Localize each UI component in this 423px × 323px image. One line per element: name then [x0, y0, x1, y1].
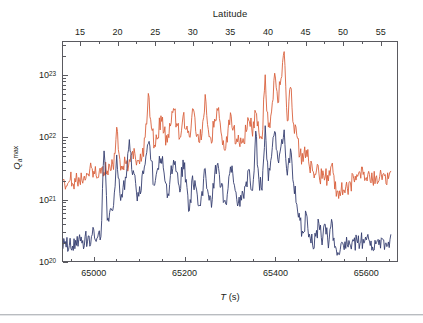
- latitude-tick-major: [381, 41, 382, 46]
- ytick-minor: [63, 147, 66, 148]
- xtick-minor: [321, 259, 322, 262]
- latitude-tick-label: 50: [338, 27, 348, 37]
- ytick-exponent: 22: [49, 132, 56, 139]
- ytick-minor: [63, 218, 66, 219]
- y-axis-symbol: Q: [11, 162, 22, 169]
- x-axis-unit: (s): [229, 291, 240, 302]
- latitude-tick-label: 25: [150, 27, 160, 37]
- y-axis-title: Qamax: [11, 128, 22, 188]
- latitude-tick-minor: [362, 41, 363, 44]
- latitude-tick-major: [343, 41, 344, 46]
- xtick-label: 65400: [263, 268, 288, 278]
- ytick-minor: [63, 119, 66, 120]
- xtick-major: [366, 257, 367, 262]
- latitude-tick-minor: [287, 41, 288, 44]
- footer-divider-shadow: [0, 315, 423, 316]
- latitude-tick-major: [193, 41, 194, 46]
- ytick-label: 1021: [18, 194, 56, 205]
- xtick-minor: [389, 259, 390, 262]
- xtick-major: [94, 257, 95, 262]
- xtick-label: 65600: [354, 268, 379, 278]
- latitude-tick-minor: [174, 41, 175, 44]
- latitude-tick-minor: [99, 41, 100, 44]
- ytick-minor: [63, 108, 66, 109]
- ytick-minor: [63, 56, 66, 57]
- latitude-tick-major: [80, 41, 81, 46]
- y-axis-subscript: a: [16, 159, 23, 163]
- ytick-minor: [63, 85, 66, 86]
- xtick-minor: [253, 259, 254, 262]
- series-lower-curve: [63, 126, 391, 256]
- ytick-minor: [63, 202, 66, 203]
- ytick-minor: [63, 89, 66, 90]
- xtick-label: 65200: [172, 268, 197, 278]
- latitude-tick-minor: [212, 41, 213, 44]
- ytick-minor: [63, 78, 66, 79]
- ytick-minor: [63, 181, 66, 182]
- ytick-mantissa: 10: [39, 133, 49, 143]
- ytick-major: [63, 75, 68, 76]
- xtick-minor: [230, 259, 231, 262]
- latitude-tick-minor: [249, 41, 250, 44]
- latitude-tick-major: [118, 41, 119, 46]
- latitude-tick-major: [155, 41, 156, 46]
- ytick-label: 1022: [18, 132, 56, 143]
- ytick-label: 1020: [18, 257, 56, 268]
- ytick-major: [63, 262, 68, 263]
- latitude-tick-major: [268, 41, 269, 46]
- latitude-tick-minor: [324, 41, 325, 44]
- ytick-minor: [63, 94, 66, 95]
- ytick-label: 1023: [18, 69, 56, 80]
- ytick-major: [63, 200, 68, 201]
- x-axis-title: T (s): [62, 291, 398, 302]
- ytick-minor: [63, 213, 66, 214]
- ytick-minor: [63, 45, 66, 46]
- xtick-minor: [207, 259, 208, 262]
- ytick-minor: [63, 151, 66, 152]
- ytick-mantissa: 10: [39, 195, 49, 205]
- ytick-exponent: 21: [49, 194, 56, 201]
- latitude-tick-label: 45: [301, 27, 311, 37]
- ytick-exponent: 20: [49, 257, 56, 264]
- xtick-major: [185, 257, 186, 262]
- series-upper-curve: [63, 52, 391, 199]
- latitude-tick-label: 15: [75, 27, 85, 37]
- latitude-tick-major: [306, 41, 307, 46]
- latitude-tick-label: 35: [225, 27, 235, 37]
- xtick-major: [275, 257, 276, 262]
- xtick-minor: [139, 259, 140, 262]
- ytick-mantissa: 10: [39, 257, 49, 267]
- chart-canvas: [63, 42, 397, 261]
- ytick-minor: [63, 243, 66, 244]
- xtick-label: 65000: [81, 268, 106, 278]
- ytick-minor: [63, 156, 66, 157]
- ytick-minor: [63, 140, 66, 141]
- ytick-minor: [63, 100, 66, 101]
- ytick-minor: [63, 81, 66, 82]
- xtick-minor: [162, 259, 163, 262]
- latitude-tick-major: [230, 41, 231, 46]
- latitude-tick-label: 20: [113, 27, 123, 37]
- ytick-minor: [63, 232, 66, 233]
- x-axis-symbol: T: [220, 291, 226, 302]
- latitude-tick-label: 30: [188, 27, 198, 37]
- ytick-minor: [63, 209, 66, 210]
- xtick-minor: [116, 259, 117, 262]
- ytick-mantissa: 10: [39, 70, 49, 80]
- figure-container: Latitude 6500065200654006560015202530354…: [0, 0, 423, 323]
- xtick-minor: [298, 259, 299, 262]
- latitude-tick-label: 40: [263, 27, 273, 37]
- latitude-tick-minor: [136, 41, 137, 44]
- ytick-minor: [63, 224, 66, 225]
- ytick-minor: [63, 143, 66, 144]
- ytick-minor: [63, 206, 66, 207]
- xtick-minor: [71, 259, 72, 262]
- latitude-tick-label: 55: [376, 27, 386, 37]
- y-axis-superscript: max: [12, 146, 19, 159]
- ytick-minor: [63, 162, 66, 163]
- ytick-exponent: 23: [49, 69, 56, 76]
- secondary-x-axis-title: Latitude: [62, 8, 398, 19]
- ytick-major: [63, 137, 68, 138]
- plot-area: [62, 41, 398, 262]
- xtick-minor: [344, 259, 345, 262]
